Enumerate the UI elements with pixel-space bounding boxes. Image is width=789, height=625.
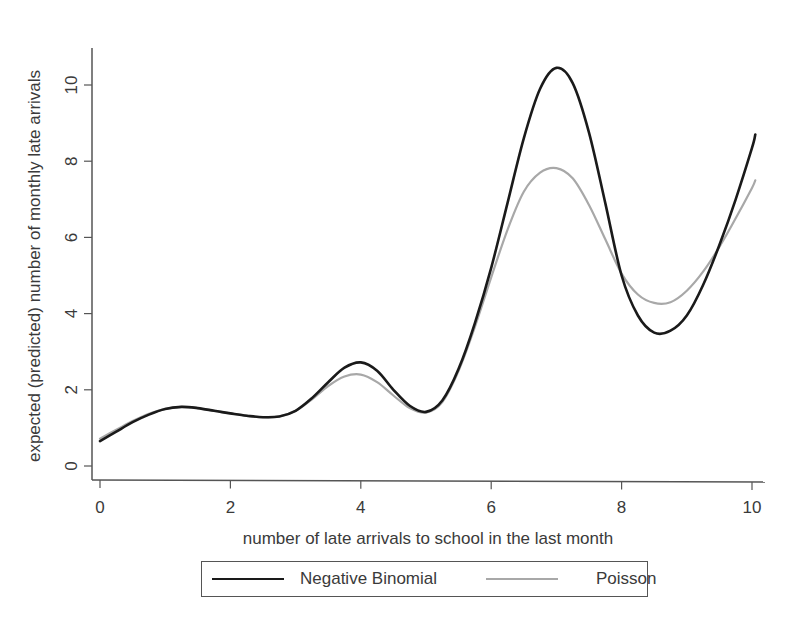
- legend-item-negative-binomial: Negative Binomial: [212, 562, 437, 596]
- y-tick-label: 10: [62, 76, 81, 95]
- series-line-negative-binomial: [100, 68, 755, 441]
- y-tick-label: 2: [62, 385, 81, 394]
- y-tick-label: 8: [62, 156, 81, 165]
- y-tick-label: 4: [62, 309, 81, 318]
- legend-label: Negative Binomial: [300, 569, 437, 589]
- axes: 02468100246810: [62, 48, 765, 517]
- x-axis-line: [92, 480, 765, 482]
- x-tick-label: 8: [617, 498, 626, 517]
- x-tick-label: 6: [486, 498, 495, 517]
- x-tick-label: 4: [356, 498, 365, 517]
- x-tick-label: 0: [95, 498, 104, 517]
- y-tick-label: 0: [62, 461, 81, 470]
- legend-swatch-poisson: [486, 578, 558, 580]
- x-tick-label: 10: [743, 498, 762, 517]
- series-layer: [100, 68, 755, 441]
- x-tick-label: 2: [226, 498, 235, 517]
- series-line-poisson: [100, 168, 755, 439]
- plot-area: 02468100246810 expected (predicted) numb…: [0, 0, 789, 625]
- x-axis-label: number of late arrivals to school in the…: [243, 529, 613, 548]
- legend: Negative Binomial Poisson: [201, 561, 648, 597]
- chart: 02468100246810 expected (predicted) numb…: [0, 0, 789, 625]
- legend-swatch-negative-binomial: [212, 578, 284, 580]
- legend-label: Poisson: [596, 569, 656, 589]
- legend-item-poisson: Poisson: [486, 562, 656, 596]
- y-tick-label: 6: [62, 233, 81, 242]
- y-axis-label: expected (predicted) number of monthly l…: [25, 70, 44, 462]
